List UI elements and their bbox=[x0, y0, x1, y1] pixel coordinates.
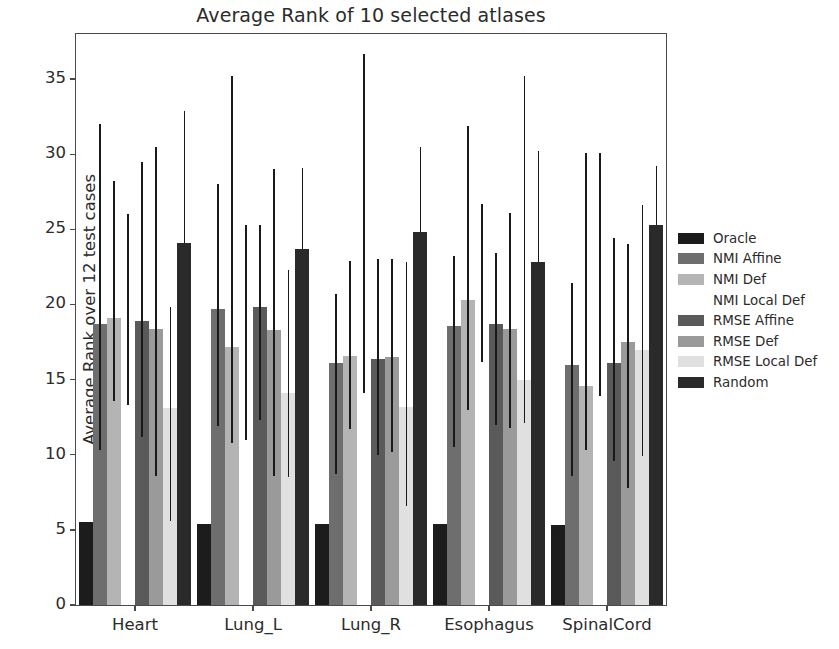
legend-label: Oracle bbox=[713, 231, 757, 246]
error-bar bbox=[642, 205, 644, 456]
y-tick-label: 0 bbox=[56, 594, 67, 613]
error-bar bbox=[524, 76, 526, 423]
legend-label: NMI Local Def bbox=[713, 293, 805, 308]
error-bar bbox=[335, 294, 337, 474]
error-bar bbox=[481, 204, 483, 362]
bar bbox=[531, 262, 545, 605]
bar bbox=[593, 396, 607, 605]
y-tick-label: 10 bbox=[45, 444, 66, 463]
legend-item[interactable]: RMSE Local Def bbox=[678, 352, 839, 373]
error-bar bbox=[273, 169, 275, 476]
legend-swatch-icon bbox=[678, 377, 704, 388]
y-tick-label: 30 bbox=[45, 143, 66, 162]
y-tick-label: 5 bbox=[56, 519, 67, 538]
legend-item[interactable]: NMI Local Def bbox=[678, 290, 839, 311]
error-bar bbox=[349, 261, 351, 429]
legend-item[interactable]: Random bbox=[678, 372, 839, 393]
chart-title: Average Rank of 10 selected atlases bbox=[75, 4, 667, 26]
bar bbox=[177, 243, 191, 605]
bar bbox=[197, 524, 211, 605]
error-bar bbox=[245, 225, 247, 440]
x-tick-mark bbox=[488, 605, 489, 611]
x-tick-label: SpinalCord bbox=[537, 615, 677, 634]
error-bar bbox=[509, 213, 511, 428]
y-tick-mark bbox=[70, 529, 76, 530]
legend-label: RMSE Def bbox=[713, 334, 778, 349]
legend-swatch-icon bbox=[678, 295, 704, 306]
error-bar bbox=[288, 270, 290, 477]
bar bbox=[239, 440, 253, 605]
y-tick-label: 20 bbox=[45, 293, 66, 312]
error-bar bbox=[538, 151, 540, 262]
legend-swatch-icon bbox=[678, 253, 704, 264]
legend-label: RMSE Affine bbox=[713, 313, 794, 328]
error-bar bbox=[127, 214, 129, 405]
error-bar bbox=[99, 124, 101, 450]
legend-swatch-icon bbox=[678, 336, 704, 347]
error-bar bbox=[406, 262, 408, 505]
legend-swatch-icon bbox=[678, 315, 704, 326]
error-bar bbox=[259, 225, 261, 420]
y-tick-mark bbox=[70, 304, 76, 305]
y-tick-mark bbox=[70, 604, 76, 605]
error-bar bbox=[217, 184, 219, 426]
y-tick-label: 15 bbox=[45, 369, 66, 388]
legend-item[interactable]: Oracle bbox=[678, 228, 839, 249]
error-bar bbox=[656, 166, 658, 225]
legend-label: NMI Def bbox=[713, 272, 766, 287]
legend-label: NMI Affine bbox=[713, 251, 782, 266]
error-bar bbox=[420, 147, 422, 233]
y-tick-mark bbox=[70, 154, 76, 155]
error-bar bbox=[155, 147, 157, 476]
error-bar bbox=[302, 168, 304, 249]
error-bar bbox=[231, 76, 233, 443]
error-bar bbox=[170, 307, 172, 520]
bar bbox=[357, 393, 371, 605]
bar bbox=[433, 524, 447, 605]
legend-item[interactable]: RMSE Affine bbox=[678, 310, 839, 331]
legend-label: RMSE Local Def bbox=[713, 354, 817, 369]
bar bbox=[475, 362, 489, 605]
error-bar bbox=[377, 259, 379, 454]
legend: OracleNMI AffineNMI DefNMI Local DefRMSE… bbox=[678, 228, 839, 393]
bar bbox=[551, 525, 565, 605]
y-tick-label: 35 bbox=[45, 68, 66, 87]
chart-root: Average Rank of 10 selected atlases Aver… bbox=[0, 0, 839, 649]
x-tick-mark bbox=[606, 605, 607, 611]
error-bar bbox=[627, 244, 629, 487]
x-tick-mark bbox=[134, 605, 135, 611]
y-tick-mark bbox=[70, 78, 76, 79]
y-tick-mark bbox=[70, 229, 76, 230]
error-bar bbox=[467, 126, 469, 410]
legend-swatch-icon bbox=[678, 274, 704, 285]
legend-swatch-icon bbox=[678, 233, 704, 244]
x-tick-mark bbox=[252, 605, 253, 611]
bar bbox=[315, 524, 329, 605]
error-bar bbox=[571, 283, 573, 475]
error-bar bbox=[557, 525, 559, 536]
legend-item[interactable]: NMI Def bbox=[678, 269, 839, 290]
bar bbox=[649, 225, 663, 605]
error-bar bbox=[495, 253, 497, 424]
x-tick-mark bbox=[370, 605, 371, 611]
legend-item[interactable]: RMSE Def bbox=[678, 331, 839, 352]
y-tick-mark bbox=[70, 379, 76, 380]
legend-label: Random bbox=[713, 375, 768, 390]
error-bar bbox=[453, 256, 455, 447]
y-tick-label: 25 bbox=[45, 218, 66, 237]
plot-frame: Average Rank over 12 test cases 05101520… bbox=[75, 33, 667, 606]
error-bar bbox=[113, 181, 115, 400]
error-bar bbox=[391, 259, 393, 451]
legend-item[interactable]: NMI Affine bbox=[678, 249, 839, 270]
y-tick-mark bbox=[70, 454, 76, 455]
bar bbox=[295, 249, 309, 605]
legend-swatch-icon bbox=[678, 356, 704, 367]
error-bar bbox=[363, 54, 365, 394]
error-bar bbox=[613, 238, 615, 460]
error-bar bbox=[184, 111, 186, 243]
error-bar bbox=[599, 153, 601, 396]
plot-area: 05101520253035HeartLung_LLung_REsophagus… bbox=[76, 34, 666, 605]
error-bar bbox=[141, 162, 143, 437]
error-bar bbox=[585, 153, 587, 451]
bar bbox=[79, 522, 93, 605]
